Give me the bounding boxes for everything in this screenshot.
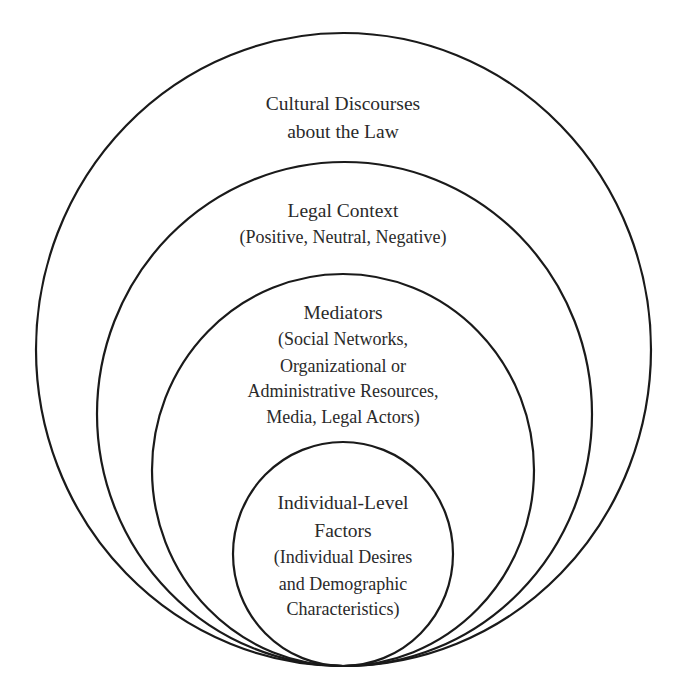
level-cultural-discourses: Cultural Discourses about the Law [36, 33, 651, 666]
label-mediators-sub-line4: Media, Legal Actors) [266, 407, 419, 428]
nested-circles-diagram: Cultural Discourses about the Law Legal … [0, 0, 679, 693]
label-individual-title-line2: Factors [314, 520, 371, 541]
label-individual-sub-line1: (Individual Desires [274, 547, 412, 568]
label-mediators-sub-line2: Organizational or [280, 356, 406, 376]
label-individual-title-line1: Individual-Level [277, 492, 409, 513]
label-cultural-discourses-line2: about the Law [287, 121, 399, 142]
label-legal-context-title: Legal Context [287, 200, 399, 221]
level-individual-level-factors: Individual-Level Factors (Individual Des… [233, 442, 453, 666]
label-cultural-discourses-line1: Cultural Discourses [266, 93, 420, 114]
label-legal-context-sub: (Positive, Neutral, Negative) [240, 227, 447, 248]
label-individual-sub-line3: Characteristics) [287, 599, 400, 620]
label-mediators-sub-line1: (Social Networks, [278, 329, 408, 350]
label-mediators-sub-line3: Administrative Resources, [248, 381, 439, 401]
label-mediators-title: Mediators [303, 302, 382, 323]
label-individual-sub-line2: and Demographic [279, 574, 407, 594]
